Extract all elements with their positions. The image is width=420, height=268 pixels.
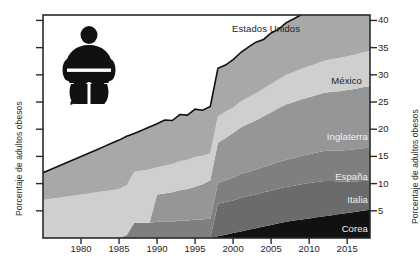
y-tick-label: 25 <box>378 96 389 107</box>
y-tick-label: 5 <box>378 205 383 216</box>
y-tick-label: 15 <box>378 150 389 161</box>
series-label-estados-unidos: Estados Unidos <box>232 23 300 34</box>
chart-figure: Porcentaje de adultos obesos Porcentaje … <box>0 0 420 268</box>
x-tick-label: 1985 <box>108 243 129 254</box>
y-tick-label: 10 <box>378 178 389 189</box>
x-tick-label: 1995 <box>185 243 206 254</box>
series-label-corea: Corea <box>342 223 368 234</box>
x-tick-label: 2010 <box>299 243 320 254</box>
y-tick-label: 20 <box>378 123 389 134</box>
x-tick-label: 2000 <box>223 243 244 254</box>
x-tick-label: 2005 <box>261 243 282 254</box>
y-tick-label: 35 <box>378 42 389 53</box>
x-tick-label: 1990 <box>146 243 167 254</box>
y-tick-label: 40 <box>378 14 389 25</box>
y-tick-label: 30 <box>378 69 389 80</box>
x-tick-label: 2015 <box>337 243 358 254</box>
series-label-méxico: México <box>331 75 362 86</box>
series-label-inglaterra: Inglaterra <box>327 131 368 142</box>
series-label-italia: Italia <box>347 194 368 205</box>
x-tick-label: 1980 <box>70 243 91 254</box>
series-label-españa: España <box>335 171 368 182</box>
